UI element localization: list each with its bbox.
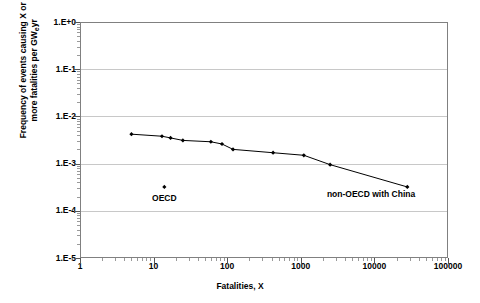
- data-point-marker: [302, 153, 306, 157]
- data-point-marker: [231, 147, 235, 151]
- data-point-marker: [129, 132, 133, 136]
- data-point-marker: [220, 142, 224, 146]
- data-point-marker: [271, 151, 275, 155]
- data-point-marker: [328, 163, 332, 167]
- chart-container: Frequency of events causing X or more fa…: [0, 0, 480, 303]
- data-label: OECD: [152, 193, 177, 203]
- series-line: [131, 134, 407, 187]
- data-point-marker: [168, 136, 172, 140]
- data-point-marker: [162, 185, 166, 189]
- data-label: non-OECD with China: [327, 189, 415, 199]
- data-point-marker: [160, 134, 164, 138]
- data-series-layer: [0, 0, 480, 303]
- data-point-marker: [209, 140, 213, 144]
- data-point-marker: [181, 138, 185, 142]
